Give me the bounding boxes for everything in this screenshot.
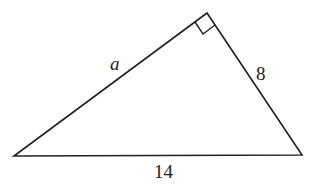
label-side-a: a [110,53,120,74]
triangle-diagram: a 8 14 [0,0,309,193]
right-angle-marker [195,22,215,34]
right-triangle [14,13,302,156]
label-side-8: 8 [256,63,266,84]
label-side-14: 14 [154,161,174,182]
